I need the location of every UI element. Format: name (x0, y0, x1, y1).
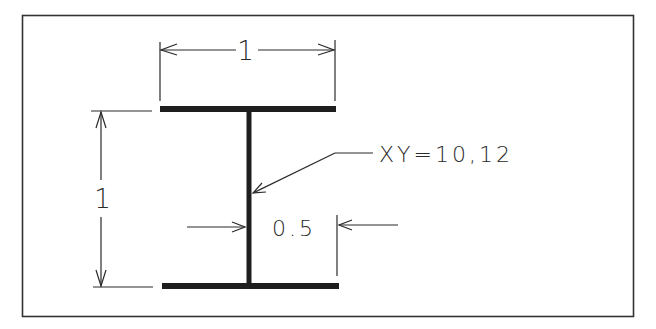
leader-label: XY=10,12 (379, 142, 513, 167)
section-height-label: 1 (94, 184, 114, 214)
web (247, 110, 252, 286)
drawing-frame (23, 16, 634, 317)
i-beam-section (160, 106, 339, 289)
web-offset-label: 0.5 (272, 216, 316, 241)
flange-width-label: 1 (237, 36, 257, 66)
i-beam-drawing: 1 1 0.5 XY=10,12 (0, 0, 656, 329)
leader-line (253, 153, 373, 193)
